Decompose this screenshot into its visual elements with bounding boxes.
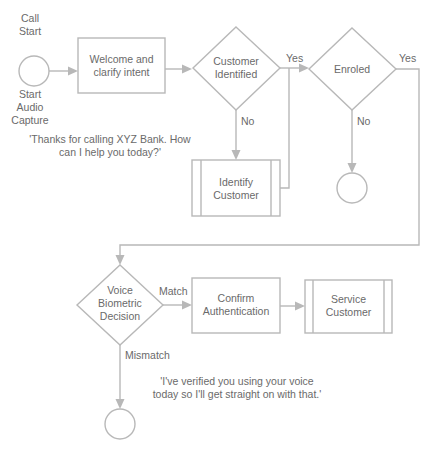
voice-biometric-label-1: Voice [107,284,133,296]
start-audio-label-1: Start [19,88,41,100]
customer-identified-label-2: Identified [215,68,258,80]
arrow-head-icon [295,302,305,311]
arrow-head-icon [182,301,192,310]
confirm-auth-label-1: Confirm [218,292,255,304]
arrow-head-icon [116,255,125,265]
identify-customer-label-2: Customer [213,189,259,201]
identified-no-label: No [241,115,255,127]
arrow-head-icon [348,163,357,173]
greeting-quote-1: 'Thanks for calling XYZ Bank. How [29,133,191,145]
service-customer-label-2: Customer [326,306,372,318]
identify-customer-label-1: Identify [219,176,254,188]
voice-biometric-label-2: Biometric [98,297,142,309]
service-customer-label-1: Service [331,293,366,305]
arrow-head-icon [299,64,309,73]
enroled-yes-label: Yes [399,52,416,64]
confirm-auth-label-2: Authentication [203,305,270,317]
mismatch-label: Mismatch [125,349,170,361]
start-audio-label-2: Audio [17,101,44,113]
verified-quote-2: today so I'll get straight on with that.… [153,388,322,400]
verified-quote-1: 'I've verified you using your voice [160,375,314,387]
end-node-not-enroled[interactable] [337,173,367,203]
call-start-label-1: Call [21,12,39,24]
flowchart: Call Start Start Audio Capture Welcome a… [0,0,434,454]
identify-customer-box[interactable] [192,160,280,216]
connector-identify-return [280,68,289,188]
start-audio-label-3: Capture [11,114,49,126]
call-start-label-2: Start [19,25,41,37]
welcome-label-2: clarify intent [93,66,149,78]
welcome-label-1: Welcome and [89,53,153,65]
arrow-head-icon [182,65,192,74]
enroled-no-label: No [357,115,371,127]
customer-identified-label-1: Customer [213,55,259,67]
greeting-quote-2: can I help you today?' [59,146,161,158]
start-node[interactable] [19,56,49,86]
voice-biometric-label-3: Decision [100,310,140,322]
match-label: Match [159,285,188,297]
enroled-label: Enroled [334,63,370,75]
arrow-head-icon [116,399,125,409]
end-node-mismatch[interactable] [105,409,135,439]
arrow-head-icon [68,67,78,76]
identified-yes-label: Yes [286,52,303,64]
arrow-head-icon [232,150,241,160]
